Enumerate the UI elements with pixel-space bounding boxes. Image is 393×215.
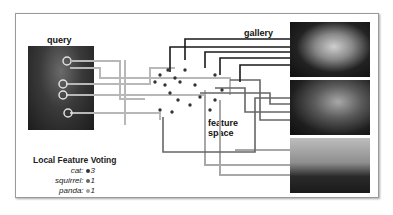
voting-title: Local Feature Voting [33,155,116,165]
vote-panda: panda:1 [33,186,95,196]
cat-dot-icon [86,169,90,173]
squirrel-dot-icon [86,179,90,183]
panda-dot-icon [86,189,90,193]
vote-squirrel: squirrel:1 [33,176,95,186]
vote-cat: cat:3 [33,166,95,176]
local-feature-voting: Local Feature Voting cat:3 squirrel:1 pa… [33,155,116,196]
